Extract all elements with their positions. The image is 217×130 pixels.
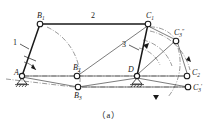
connector-A-B3 — [22, 77, 78, 87]
joint-label-B3: B3 — [74, 91, 82, 101]
joint-label-B1-sub: 1 — [42, 15, 45, 21]
joint-label-B2-sub: 2 — [78, 67, 81, 73]
connector-D-C3p — [137, 78, 188, 87]
pin-joints — [37, 21, 191, 90]
link-1-crank-AB1 — [22, 24, 40, 76]
joint-label-C3p-prime: ′ — [201, 83, 203, 89]
joint-label-B3-sub: 3 — [78, 95, 82, 101]
joint-label-B2: B2 — [73, 63, 81, 73]
joint-circle-C1 — [145, 21, 151, 27]
link-number-labels: 1 2 3 — [13, 11, 126, 49]
leader-link-1 — [20, 44, 29, 49]
leader-link-3 — [129, 45, 139, 50]
ground-pivot-D — [130, 73, 144, 87]
joint-label-D: D — [127, 65, 134, 74]
ground-hatch-A-3 — [22, 85, 24, 87]
joint-label-A: A — [13, 68, 19, 77]
joint-label-C3-double-prime: C3″ — [174, 28, 185, 38]
link-label-1: 1 — [13, 38, 17, 47]
joint-circle-C3p — [185, 84, 191, 90]
joint-label-C2: C2 — [192, 68, 200, 78]
joint-circle-C3s — [173, 38, 179, 44]
joint-label-D-main: D — [127, 65, 134, 74]
tick-link-1 — [24, 56, 36, 61]
joint-circle-B3 — [75, 84, 81, 90]
ground-hatch-A-4 — [25, 85, 27, 87]
rotation-arrowhead-A — [31, 64, 36, 70]
joint-label-C1-sub: 1 — [151, 15, 154, 21]
link-label-2: 2 — [91, 11, 95, 20]
joint-circle-B2 — [74, 73, 80, 79]
joint-label-B1: B1 — [37, 11, 45, 21]
joint-label-C2-sub: 2 — [197, 72, 200, 78]
joint-circle-C2 — [184, 73, 190, 79]
connector-B2-C1 — [80, 27, 146, 74]
rotation-arrowhead-D-down — [153, 95, 159, 100]
joint-label-C3s-prime: ″ — [182, 28, 185, 34]
ground-hatch-D-3 — [137, 85, 139, 87]
figure-caption: （a） — [0, 108, 217, 120]
kinematic-linkage-figure: A D B1 B2 B3 C1 C3″ C2 — [0, 0, 217, 130]
arc-rocker-lower — [168, 48, 180, 97]
link-label-3: 3 — [122, 40, 126, 49]
joint-label-C3-prime: C3′ — [193, 83, 203, 93]
ground-hatch-D-1 — [131, 85, 133, 87]
construction-arcs — [6, 27, 190, 97]
ground-hatch-D-2 — [134, 85, 136, 87]
joint-label-A-main: A — [13, 68, 19, 77]
crank-tick-mark — [24, 56, 36, 61]
connector-B3-D — [78, 78, 137, 87]
ground-hatch-A-1 — [16, 85, 18, 87]
ground-hatch-A-2 — [19, 85, 21, 87]
joint-circle-B1 — [37, 21, 43, 27]
ground-hatch-D-4 — [140, 85, 142, 87]
rotation-arrows — [24, 43, 191, 100]
joint-label-C1: C1 — [146, 11, 154, 21]
